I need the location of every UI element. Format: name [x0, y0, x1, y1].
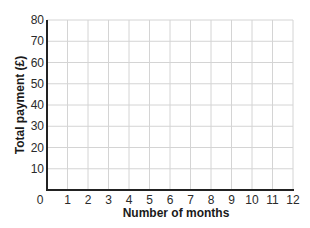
x-axis-title: Number of months: [123, 206, 230, 220]
y-tick-label: 60: [31, 56, 45, 70]
x-tick-label: 4: [126, 193, 133, 207]
x-tick-label: 8: [208, 193, 215, 207]
x-tick-label: 0: [37, 193, 44, 207]
y-tick-label: 20: [31, 141, 45, 155]
x-tick-label: 2: [85, 193, 92, 207]
y-tick-label: 30: [31, 119, 45, 133]
y-tick-label: 70: [31, 34, 45, 48]
x-axis-tick-labels: 0123456789101112: [37, 193, 300, 207]
y-axis-tick-labels: 1020304050607080: [31, 13, 45, 176]
x-tick-label: 1: [64, 193, 71, 207]
x-tick-label: 5: [146, 193, 153, 207]
y-tick-label: 10: [31, 162, 45, 176]
y-tick-label: 40: [31, 98, 45, 112]
y-tick-label: 50: [31, 77, 45, 91]
x-tick-label: 3: [105, 193, 112, 207]
x-tick-label: 7: [187, 193, 194, 207]
x-tick-label: 10: [245, 193, 259, 207]
y-axis-title: Total payment (£): [13, 56, 27, 154]
y-tick-label: 80: [31, 13, 45, 27]
x-tick-label: 6: [167, 193, 174, 207]
grid-lines: [47, 20, 293, 190]
x-tick-label: 11: [266, 193, 279, 207]
x-tick-label: 12: [286, 193, 300, 207]
x-tick-label: 9: [228, 193, 235, 207]
blank-graph-grid: 1020304050607080 0123456789101112 Number…: [0, 0, 310, 228]
